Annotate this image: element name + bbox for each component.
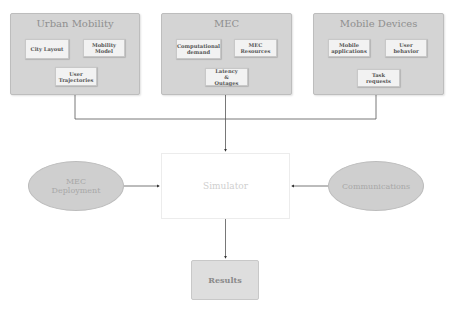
node-mec-deployment: MEC Deployment xyxy=(28,161,124,211)
group-title: Mobile Devices xyxy=(314,18,443,29)
node-mobility-model: Mobility Model xyxy=(83,39,125,57)
node-results: Results xyxy=(191,260,259,300)
node-mobile-applications: Mobile applications xyxy=(328,39,370,57)
node-latency-outages: Latency & Outages xyxy=(205,68,248,86)
group-title: Urban Mobility xyxy=(11,18,139,29)
node-computational-demand: Computational demand xyxy=(176,39,221,59)
group-title: MEC xyxy=(162,18,291,29)
node-user-behavior: User behavior xyxy=(385,39,427,57)
group-mec: MEC Computational demand MEC Resources L… xyxy=(161,13,292,95)
node-task-requests: Task requests xyxy=(357,69,400,87)
group-urban-mobility: Urban Mobility City Layout Mobility Mode… xyxy=(10,13,140,95)
node-user-trajectories: User Trajectories xyxy=(55,67,97,86)
node-communications: Communications xyxy=(328,161,424,211)
node-mec-resources: MEC Resources xyxy=(234,39,277,57)
group-mobile-devices: Mobile Devices Mobile applications User … xyxy=(313,13,444,95)
node-city-layout: City Layout xyxy=(25,39,69,59)
node-simulator: Simulator xyxy=(161,153,290,219)
